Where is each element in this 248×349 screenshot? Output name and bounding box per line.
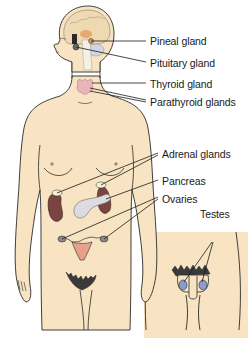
label-pituitary-gland: Pituitary gland bbox=[150, 57, 215, 69]
testis-left bbox=[179, 280, 187, 290]
label-pineal-gland: Pineal gland bbox=[150, 35, 207, 47]
female-body bbox=[15, 60, 157, 330]
male-lower-body bbox=[144, 232, 248, 338]
label-parathyroid-glands: Parathyroid glands bbox=[150, 96, 236, 108]
label-pancreas: Pancreas bbox=[162, 175, 206, 187]
head bbox=[54, 6, 114, 72]
pituitary-gland bbox=[72, 34, 77, 44]
testis-right bbox=[199, 280, 207, 290]
thyroid-gland bbox=[77, 80, 93, 95]
label-ovaries: Ovaries bbox=[162, 193, 197, 205]
label-thyroid-gland: Thyroid gland bbox=[150, 78, 212, 90]
label-adrenal-glands: Adrenal glands bbox=[162, 148, 231, 160]
label-testes: Testes bbox=[200, 208, 230, 220]
endocrine-diagram bbox=[0, 0, 248, 349]
